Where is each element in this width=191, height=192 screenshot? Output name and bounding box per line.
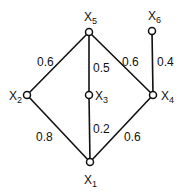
- label-x6: X6: [148, 9, 161, 25]
- weight-x4-x1: 0.6: [124, 130, 141, 144]
- edge-x6-x4: [152, 31, 153, 95]
- node-x1: [87, 159, 94, 166]
- label-x3: X3: [95, 89, 108, 105]
- node-x4: [150, 92, 157, 99]
- edge-x3-x1: [89, 95, 90, 162]
- weighted-graph: 0.6 0.5 0.6 0.4 0.8 0.2 0.6 X1 X2 X3 X4 …: [0, 0, 191, 192]
- weight-x6-x4: 0.4: [157, 55, 174, 69]
- weight-x5-x3: 0.5: [93, 61, 110, 75]
- weight-x5-x2: 0.6: [37, 55, 54, 69]
- label-x2: X2: [9, 89, 22, 105]
- weight-x5-x4: 0.6: [122, 55, 139, 69]
- node-x2: [24, 92, 31, 99]
- node-x3: [86, 92, 93, 99]
- label-x5: X5: [84, 10, 97, 26]
- label-x1: X1: [84, 173, 97, 189]
- node-x6: [149, 28, 156, 35]
- edge-x2-x1: [27, 95, 90, 162]
- weight-x2-x1: 0.8: [36, 130, 53, 144]
- weight-x3-x1: 0.2: [93, 122, 110, 136]
- label-x4: X4: [161, 89, 174, 105]
- node-x5: [86, 29, 93, 36]
